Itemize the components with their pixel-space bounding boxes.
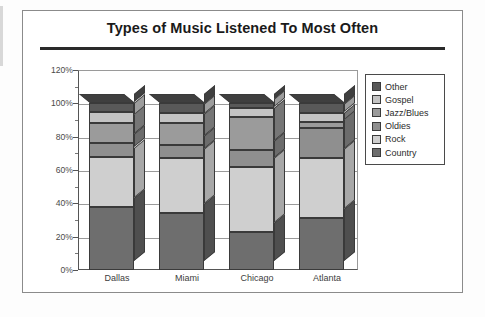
page-left-edge-artifact bbox=[0, 6, 3, 66]
bar-segment[interactable] bbox=[299, 128, 344, 158]
bar-segment[interactable] bbox=[229, 117, 274, 150]
y-axis-major-tick bbox=[73, 103, 78, 104]
x-axis-tick-label: Atlanta bbox=[291, 273, 363, 283]
bar-segment-side-face bbox=[344, 140, 355, 209]
y-axis-tick-label: 40% bbox=[33, 198, 73, 208]
bar-segment[interactable] bbox=[159, 145, 204, 158]
bar-segment[interactable] bbox=[89, 143, 134, 156]
y-axis-tick-label: 80% bbox=[33, 132, 73, 142]
legend-swatch-icon bbox=[372, 122, 381, 131]
y-axis-tick-label: 120% bbox=[33, 65, 73, 75]
y-axis-major-tick bbox=[73, 170, 78, 171]
legend-swatch-icon bbox=[372, 148, 381, 157]
y-axis-major-tick bbox=[73, 137, 78, 138]
y-axis-major-tick bbox=[73, 203, 78, 204]
y-axis-minor-tick bbox=[75, 253, 78, 254]
bar-segment[interactable] bbox=[229, 167, 274, 232]
bar-segment[interactable] bbox=[229, 108, 274, 116]
bar-segment[interactable] bbox=[299, 158, 344, 218]
bar-segment[interactable] bbox=[299, 122, 344, 129]
bar-segment[interactable] bbox=[229, 103, 274, 108]
bar-segment[interactable] bbox=[159, 158, 204, 213]
y-axis-major-tick bbox=[73, 270, 78, 271]
legend-swatch-icon bbox=[372, 82, 381, 91]
legend-item-label: Gospel bbox=[385, 95, 414, 105]
y-axis-minor-tick bbox=[75, 120, 78, 121]
legend-item[interactable]: Jazz/Blues bbox=[372, 106, 440, 119]
legend-item-label: Country bbox=[385, 148, 417, 158]
y-axis-major-tick bbox=[73, 237, 78, 238]
chart-title: Types of Music Listened To Most Often bbox=[22, 20, 463, 36]
legend-item-label: Other bbox=[385, 82, 408, 92]
legend-item[interactable]: Country bbox=[372, 146, 440, 159]
title-underline-rule bbox=[40, 47, 445, 50]
bar-segment[interactable] bbox=[229, 150, 274, 167]
bar-segment[interactable] bbox=[89, 112, 134, 124]
y-axis-major-tick bbox=[73, 70, 78, 71]
bar-segment[interactable] bbox=[229, 232, 274, 270]
legend-item-label: Rock bbox=[385, 134, 406, 144]
bar-segment[interactable] bbox=[299, 103, 344, 113]
bar-segment[interactable] bbox=[159, 123, 204, 145]
y-axis-tick-label: 20% bbox=[33, 232, 73, 242]
legend-item-label: Oldies bbox=[385, 121, 411, 131]
bar-segment[interactable] bbox=[299, 113, 344, 121]
bar-segment[interactable] bbox=[159, 213, 204, 270]
bar-segment[interactable] bbox=[89, 157, 134, 207]
bar-segment[interactable] bbox=[89, 103, 134, 111]
legend-item[interactable]: Rock bbox=[372, 133, 440, 146]
y-axis-tick-label: 0% bbox=[33, 265, 73, 275]
bar-segment-side-face bbox=[274, 149, 285, 223]
legend-item[interactable]: Other bbox=[372, 80, 440, 93]
bar-segment-side-face bbox=[134, 189, 145, 261]
x-axis-tick-label: Dallas bbox=[81, 273, 153, 283]
legend-item[interactable]: Oldies bbox=[372, 120, 440, 133]
legend-swatch-icon bbox=[372, 108, 381, 117]
chart-page: Types of Music Listened To Most Often 0%… bbox=[0, 0, 485, 317]
bar-segment-side-face bbox=[344, 200, 355, 261]
legend-swatch-icon bbox=[372, 135, 381, 144]
legend-swatch-icon bbox=[372, 95, 381, 104]
y-axis-tick-label: 100% bbox=[33, 98, 73, 108]
chart-legend: OtherGospelJazz/BluesOldiesRockCountry bbox=[365, 74, 445, 165]
legend-item-label: Jazz/Blues bbox=[385, 108, 429, 118]
bar-segment[interactable] bbox=[299, 218, 344, 270]
bar-segment[interactable] bbox=[89, 207, 134, 270]
bar-segment[interactable] bbox=[159, 113, 204, 123]
bar-segment-side-face bbox=[204, 140, 215, 204]
y-axis-minor-tick bbox=[75, 87, 78, 88]
y-axis-minor-tick bbox=[75, 220, 78, 221]
x-axis-tick-label: Miami bbox=[151, 273, 223, 283]
y-axis-tick-label: 60% bbox=[33, 165, 73, 175]
bar-segment-side-face bbox=[204, 195, 215, 261]
bar-segment-side-face bbox=[134, 139, 145, 198]
bar-segment[interactable] bbox=[89, 123, 134, 143]
y-axis-minor-tick bbox=[75, 153, 78, 154]
x-axis-tick-label: Chicago bbox=[221, 273, 293, 283]
legend-item[interactable]: Gospel bbox=[372, 93, 440, 106]
y-axis-minor-tick bbox=[75, 187, 78, 188]
bar-segment[interactable] bbox=[159, 103, 204, 113]
